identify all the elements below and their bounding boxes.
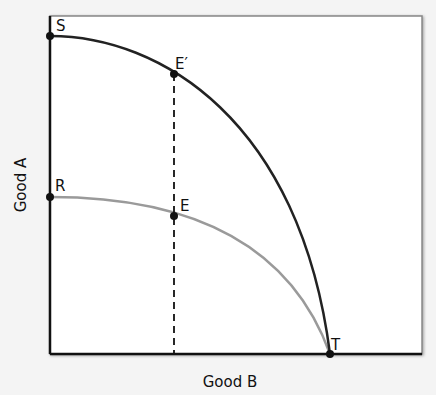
ppc-diagram: S E′ R E T Good B Good A [0,0,436,395]
x-axis-title: Good B [203,373,258,391]
label-e: E [180,197,189,215]
label-s: S [56,17,66,35]
label-t: T [330,336,341,354]
y-axis-title: Good A [12,157,30,212]
point-s [46,32,54,40]
point-r [46,193,54,201]
label-e-prime: E′ [175,55,188,73]
diagram-canvas: S E′ R E T Good B Good A [0,0,436,395]
plot-area [50,16,422,354]
point-e [170,212,178,220]
label-r: R [55,177,65,195]
